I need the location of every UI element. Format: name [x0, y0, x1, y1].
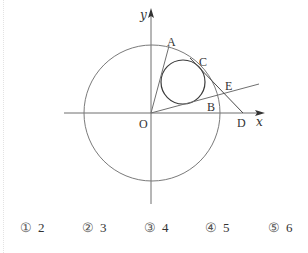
- tangent-CD: [190, 58, 243, 113]
- option-marker: ①: [20, 220, 32, 236]
- option-3[interactable]: ③ 4: [144, 220, 169, 236]
- option-4[interactable]: ④ 5: [205, 220, 230, 236]
- geometry-figure: y x O A C E B D: [0, 0, 308, 215]
- label-C: C: [199, 55, 207, 69]
- option-2[interactable]: ② 3: [82, 220, 107, 236]
- option-value: 6: [286, 220, 293, 236]
- label-D: D: [237, 116, 246, 130]
- label-A: A: [167, 35, 176, 49]
- option-marker: ③: [144, 220, 156, 236]
- x-axis-label: x: [256, 115, 263, 129]
- option-1[interactable]: ① 2: [20, 220, 45, 236]
- label-E: E: [225, 79, 232, 93]
- option-marker: ⑤: [268, 220, 280, 236]
- option-marker: ④: [205, 220, 217, 236]
- ray-OE: [151, 84, 259, 113]
- y-axis-label: y: [139, 8, 147, 22]
- answer-options: ① 2 ② 3 ③ 4 ④ 5 ⑤ 6: [0, 220, 308, 240]
- option-5[interactable]: ⑤ 6: [268, 220, 293, 236]
- option-value: 5: [223, 220, 230, 236]
- option-value: 2: [38, 220, 45, 236]
- option-marker: ②: [82, 220, 94, 236]
- label-O: O: [139, 117, 148, 131]
- option-value: 3: [100, 220, 107, 236]
- segment-OA: [151, 46, 169, 113]
- option-value: 4: [162, 220, 169, 236]
- label-B: B: [207, 100, 215, 114]
